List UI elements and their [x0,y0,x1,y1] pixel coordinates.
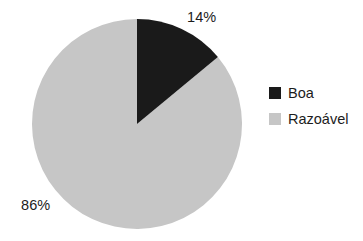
legend-label-boa: Boa [288,86,314,101]
slice-label-razoavel-percent: 86% [21,198,50,213]
slice-label-boa-percent: 14% [187,10,216,25]
legend-label-razoavel: Razoável [288,112,348,127]
legend-item-boa[interactable]: Boa [269,86,348,101]
legend-swatch-razoavel-icon [269,113,281,125]
chart-legend: Boa Razoável [269,86,348,126]
legend-item-razoavel[interactable]: Razoável [269,112,348,127]
legend-swatch-boa-icon [269,87,281,99]
pie-slices-group [32,19,242,229]
pie-chart-figure: 14% 86% Boa Razoável [0,0,363,241]
